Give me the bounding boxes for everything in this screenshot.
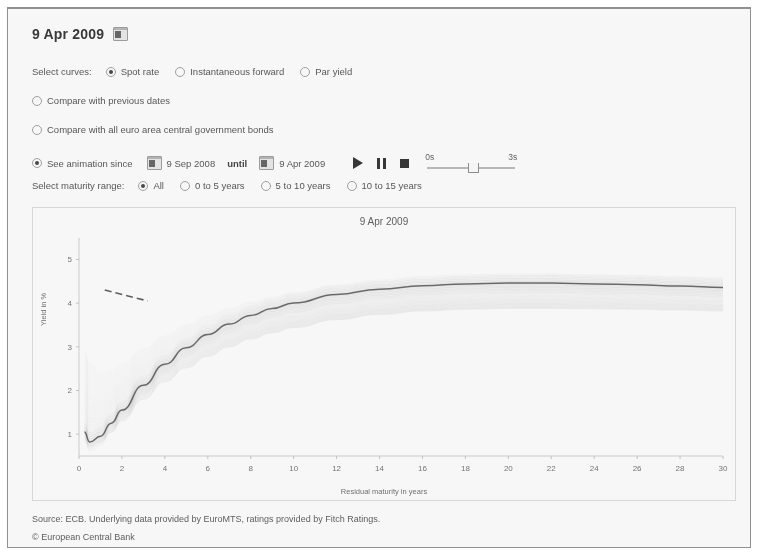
radio-spot-rate[interactable]: Spot rate	[106, 66, 160, 77]
radio-spot-rate-label: Spot rate	[121, 66, 160, 77]
svg-text:4: 4	[68, 299, 73, 308]
radio-maturity-0-5[interactable]: 0 to 5 years	[180, 180, 245, 191]
speed-slider-min-label: 0s	[425, 152, 434, 162]
radio-maturity-all-indicator[interactable]	[138, 181, 148, 191]
media-controls	[353, 157, 409, 169]
svg-text:14: 14	[375, 464, 384, 473]
compare-euro-area-row[interactable]: Compare with all euro area central gover…	[32, 124, 290, 135]
radio-maturity-0-5-label: 0 to 5 years	[195, 180, 245, 191]
animation-end-date[interactable]: 9 Apr 2009	[259, 156, 325, 170]
maturity-range-row: Select maturity range: All 0 to 5 years …	[32, 180, 438, 191]
svg-text:24: 24	[590, 464, 599, 473]
radio-compare-previous[interactable]: Compare with previous dates	[32, 95, 170, 106]
radio-maturity-all[interactable]: All	[138, 180, 164, 191]
radio-maturity-10-15-label: 10 to 15 years	[362, 180, 422, 191]
svg-text:5: 5	[68, 255, 73, 264]
copyright-note: © European Central Bank	[32, 532, 135, 542]
app-frame: 9 Apr 2009 Select curves: Spot rate Inst…	[7, 7, 751, 548]
radio-compare-euro-area-label: Compare with all euro area central gover…	[47, 124, 274, 135]
animation-row: See animation since 9 Sep 2008 until 9 A…	[32, 152, 517, 174]
radio-maturity-10-15-indicator[interactable]	[347, 181, 357, 191]
speed-slider[interactable]: 0s 3s	[425, 152, 517, 174]
svg-text:10: 10	[289, 464, 298, 473]
page-root: 9 Apr 2009 Select curves: Spot rate Inst…	[0, 0, 759, 556]
radio-see-animation-label: See animation since	[47, 158, 133, 169]
svg-text:3: 3	[68, 343, 73, 352]
select-curves-row: Select curves: Spot rate Instantaneous f…	[32, 66, 368, 77]
svg-text:0: 0	[77, 464, 82, 473]
source-note: Source: ECB. Underlying data provided by…	[32, 514, 380, 524]
svg-text:20: 20	[504, 464, 513, 473]
radio-see-animation-indicator[interactable]	[32, 158, 42, 168]
animation-end-date-label: 9 Apr 2009	[279, 158, 325, 169]
radio-maturity-10-15[interactable]: 10 to 15 years	[347, 180, 422, 191]
radio-maturity-5-10[interactable]: 5 to 10 years	[261, 180, 331, 191]
animation-start-date[interactable]: 9 Sep 2008	[147, 156, 216, 170]
radio-par-yield-label: Par yield	[315, 66, 352, 77]
svg-text:30: 30	[719, 464, 728, 473]
radio-par-yield-indicator[interactable]	[300, 67, 310, 77]
svg-text:6: 6	[206, 464, 211, 473]
page-header: 9 Apr 2009	[32, 26, 128, 42]
calendar-icon-end[interactable]	[259, 156, 274, 170]
radio-compare-previous-label: Compare with previous dates	[47, 95, 170, 106]
chart-plot-area: 02468101214161820222426283012345	[33, 208, 737, 502]
radio-spot-rate-indicator[interactable]	[106, 67, 116, 77]
stop-icon[interactable]	[400, 159, 409, 168]
yield-curve-chart: 9 Apr 2009 Yield in % Residual maturity …	[32, 207, 736, 501]
speed-slider-thumb[interactable]	[468, 163, 479, 173]
radio-instantaneous-forward-label: Instantaneous forward	[190, 66, 284, 77]
maturity-range-label: Select maturity range:	[32, 180, 124, 191]
pause-icon[interactable]	[377, 158, 386, 169]
svg-text:4: 4	[163, 464, 168, 473]
svg-text:16: 16	[418, 464, 427, 473]
svg-text:8: 8	[249, 464, 254, 473]
radio-compare-euro-area-indicator[interactable]	[32, 125, 42, 135]
svg-text:2: 2	[120, 464, 125, 473]
page-title: 9 Apr 2009	[32, 26, 104, 42]
svg-text:28: 28	[676, 464, 685, 473]
radio-maturity-5-10-label: 5 to 10 years	[276, 180, 331, 191]
radio-maturity-5-10-indicator[interactable]	[261, 181, 271, 191]
animation-start-date-label: 9 Sep 2008	[167, 158, 216, 169]
calendar-icon-start[interactable]	[147, 156, 162, 170]
radio-par-yield[interactable]: Par yield	[300, 66, 352, 77]
svg-text:18: 18	[461, 464, 470, 473]
speed-slider-max-label: 3s	[508, 152, 517, 162]
radio-maturity-all-label: All	[153, 180, 164, 191]
until-label: until	[227, 158, 247, 169]
svg-text:2: 2	[68, 386, 73, 395]
calendar-icon[interactable]	[113, 27, 128, 41]
radio-maturity-0-5-indicator[interactable]	[180, 181, 190, 191]
svg-text:1: 1	[68, 430, 73, 439]
radio-compare-euro-area[interactable]: Compare with all euro area central gover…	[32, 124, 274, 135]
svg-text:22: 22	[547, 464, 556, 473]
radio-see-animation[interactable]: See animation since	[32, 158, 133, 169]
compare-previous-row[interactable]: Compare with previous dates	[32, 95, 186, 106]
select-curves-label: Select curves:	[32, 66, 92, 77]
svg-text:12: 12	[332, 464, 341, 473]
play-icon[interactable]	[353, 157, 363, 169]
svg-text:26: 26	[633, 464, 642, 473]
radio-instantaneous-forward[interactable]: Instantaneous forward	[175, 66, 284, 77]
radio-instantaneous-forward-indicator[interactable]	[175, 67, 185, 77]
radio-compare-previous-indicator[interactable]	[32, 96, 42, 106]
